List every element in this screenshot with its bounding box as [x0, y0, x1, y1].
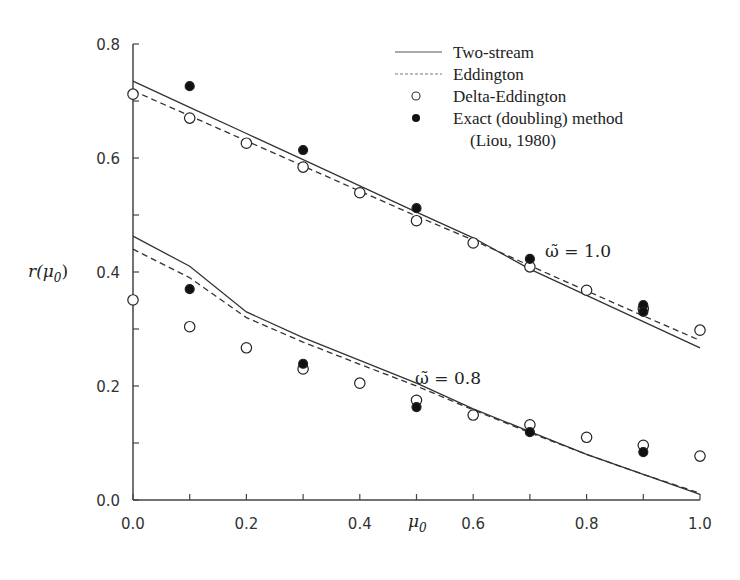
- exact-point: [525, 428, 534, 437]
- x-tick-label: 0.8: [575, 515, 599, 533]
- exact-point: [185, 285, 194, 294]
- legend-open-circle-icon: [412, 92, 420, 100]
- curves: [133, 81, 700, 494]
- delta-eddington-point: [241, 138, 251, 148]
- x-axis-label: μ0: [408, 511, 427, 535]
- exact-point: [299, 146, 308, 155]
- exact-point: [412, 403, 421, 412]
- delta-eddington-point: [411, 216, 421, 226]
- y-tick-label: 0.4: [96, 264, 120, 282]
- delta-eddington-point: [185, 113, 195, 123]
- delta-eddington-point: [695, 451, 705, 461]
- exact-point: [185, 82, 194, 91]
- delta-eddington-point: [695, 325, 705, 335]
- delta-eddington-point: [468, 238, 478, 248]
- legend-label: Delta-Eddington: [453, 87, 567, 106]
- data-points: [128, 82, 705, 462]
- x-tick-label: 1.0: [688, 515, 712, 533]
- delta-eddington-point: [355, 188, 365, 198]
- two-stream-curve: [133, 236, 700, 494]
- y-axis-label: r(μ0): [28, 261, 68, 285]
- x-tick-label: 0.0: [121, 515, 145, 533]
- y-tick-label: 0.0: [96, 492, 120, 510]
- delta-eddington-point: [241, 343, 251, 353]
- exact-point: [639, 307, 648, 316]
- delta-eddington-point: [355, 378, 365, 388]
- delta-eddington-point: [468, 410, 478, 420]
- legend-label: Two-stream: [453, 43, 534, 62]
- exact-point: [299, 359, 308, 368]
- delta-eddington-point: [128, 295, 138, 305]
- exact-point: [639, 448, 648, 457]
- legend-label: Eddington: [453, 65, 524, 84]
- exact-point: [412, 204, 421, 213]
- y-tick-label: 0.2: [96, 378, 120, 396]
- reflectance-chart: 0.00.20.40.60.81.00.00.20.40.60.8 Two-st…: [0, 0, 740, 580]
- annotation-omega-1: ω̃ = 1.0: [545, 241, 611, 261]
- annotation-omega-08: ω̃ = 0.8: [415, 368, 481, 388]
- legend: Two-streamEddingtonDelta-EddingtonExact …: [395, 43, 623, 150]
- legend-filled-circle-icon: [412, 114, 420, 122]
- delta-eddington-point: [185, 322, 195, 332]
- y-tick-label: 0.6: [96, 150, 120, 168]
- legend-label: (Liou, 1980): [470, 131, 556, 150]
- delta-eddington-point: [128, 89, 138, 99]
- legend-label: Exact (doubling) method: [453, 109, 623, 128]
- delta-eddington-point: [581, 432, 591, 442]
- exact-point: [525, 254, 534, 263]
- x-tick-label: 0.2: [234, 515, 258, 533]
- x-tick-label: 0.6: [461, 515, 485, 533]
- delta-eddington-point: [581, 285, 591, 295]
- x-tick-label: 0.4: [348, 515, 372, 533]
- y-tick-label: 0.8: [96, 36, 120, 54]
- delta-eddington-point: [298, 162, 308, 172]
